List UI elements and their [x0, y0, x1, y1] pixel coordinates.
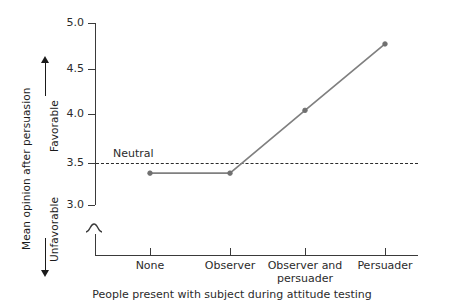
- series-markers: [148, 42, 388, 176]
- series-line-mean-opinion: [150, 44, 385, 173]
- data-point-observer: [228, 171, 233, 176]
- chart-figure: Mean opinion after persuasion Favorable …: [0, 0, 464, 308]
- x-axis-title: People present with subject during attit…: [0, 288, 464, 301]
- data-series-plot: [0, 0, 464, 308]
- data-point-none: [148, 171, 153, 176]
- data-point-persuader: [383, 42, 388, 47]
- data-point-observer-and-persuader: [303, 108, 308, 113]
